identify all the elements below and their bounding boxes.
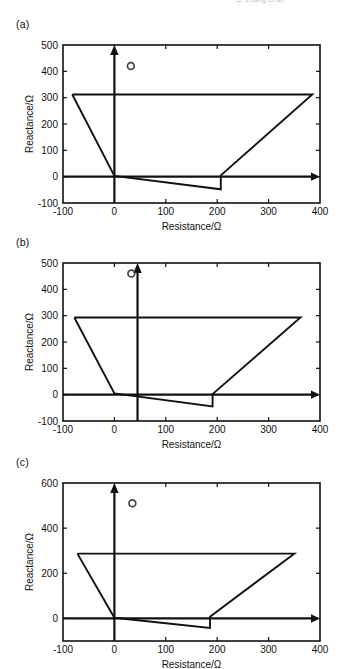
panel-a-plot: -1000100200300400-1000100200300400500Rea… (0, 18, 346, 232)
impedance-locus (74, 318, 300, 407)
y-tick-label: 400 (41, 284, 58, 295)
x-tick-label: 200 (209, 424, 226, 435)
x-tick-label: -100 (53, 644, 73, 655)
operating-point-marker (129, 500, 136, 507)
x-tick-label: 200 (209, 644, 226, 655)
horizontal-axis-arrowhead (311, 390, 320, 398)
x-tick-label: 400 (312, 644, 329, 655)
y-tick-label: 0 (52, 389, 58, 400)
y-tick-label: 200 (41, 337, 58, 348)
x-tick-label: 0 (112, 206, 118, 217)
y-tick-label: 200 (41, 568, 58, 579)
y-tick-label: -100 (38, 198, 58, 209)
impedance-locus (77, 554, 294, 628)
x-tick-label: 100 (157, 424, 174, 435)
y-tick-label: 0 (52, 613, 58, 624)
plot-frame (63, 45, 320, 203)
horizontal-axis-arrowhead (311, 172, 320, 180)
x-tick-label: 0 (112, 644, 118, 655)
y-tick-label: -100 (38, 416, 58, 427)
y-axis-title: Reactance/Ω (24, 532, 35, 591)
y-axis-title: Reactance/Ω (24, 312, 35, 371)
x-tick-label: 400 (312, 206, 329, 217)
vertical-axis-arrowhead (110, 45, 118, 55)
figure-panel-a: (a) -1000100200300400-100010020030040050… (0, 18, 346, 232)
x-axis-title: Resistance/Ω (162, 659, 222, 669)
x-axis-title: Resistance/Ω (162, 221, 222, 232)
vertical-axis-arrowhead (110, 483, 118, 493)
y-tick-label: 200 (41, 119, 58, 130)
x-tick-label: 300 (260, 424, 277, 435)
y-tick-label: 100 (41, 363, 58, 374)
figure-panel-c: (c) -10001002003004000200400600Reactance… (0, 456, 346, 669)
x-tick-label: 300 (260, 644, 277, 655)
y-axis-title: Reactance/Ω (24, 94, 35, 153)
page-header-faint: S. Zhang et al. (236, 0, 344, 9)
x-axis-title: Resistance/Ω (162, 439, 222, 450)
x-tick-label: 200 (209, 206, 226, 217)
y-tick-label: 300 (41, 310, 58, 321)
plot-frame (63, 263, 320, 421)
y-tick-label: 500 (41, 258, 58, 269)
plot-frame (63, 483, 320, 641)
y-tick-label: 0 (52, 171, 58, 182)
x-tick-label: 100 (157, 644, 174, 655)
operating-point-marker (127, 63, 134, 70)
figure-panel-b: (b) -1000100200300400-100010020030040050… (0, 236, 346, 450)
y-tick-label: 500 (41, 40, 58, 51)
panel-c-plot: -10001002003004000200400600Reactance/ΩRe… (0, 456, 346, 669)
x-tick-label: 0 (112, 424, 118, 435)
panel-b-plot: -1000100200300400-1000100200300400500Rea… (0, 236, 346, 450)
y-tick-label: 400 (41, 523, 58, 534)
y-tick-label: 400 (41, 66, 58, 77)
y-tick-label: 600 (41, 478, 58, 489)
y-tick-label: 300 (41, 92, 58, 103)
x-tick-label: 100 (157, 206, 174, 217)
y-tick-label: 100 (41, 145, 58, 156)
x-tick-label: 400 (312, 424, 329, 435)
horizontal-axis-arrowhead (311, 614, 320, 622)
impedance-locus (72, 95, 312, 190)
page-header-text: S. Zhang et al. (236, 0, 344, 4)
x-tick-label: 300 (260, 206, 277, 217)
operating-point-marker (128, 270, 135, 277)
